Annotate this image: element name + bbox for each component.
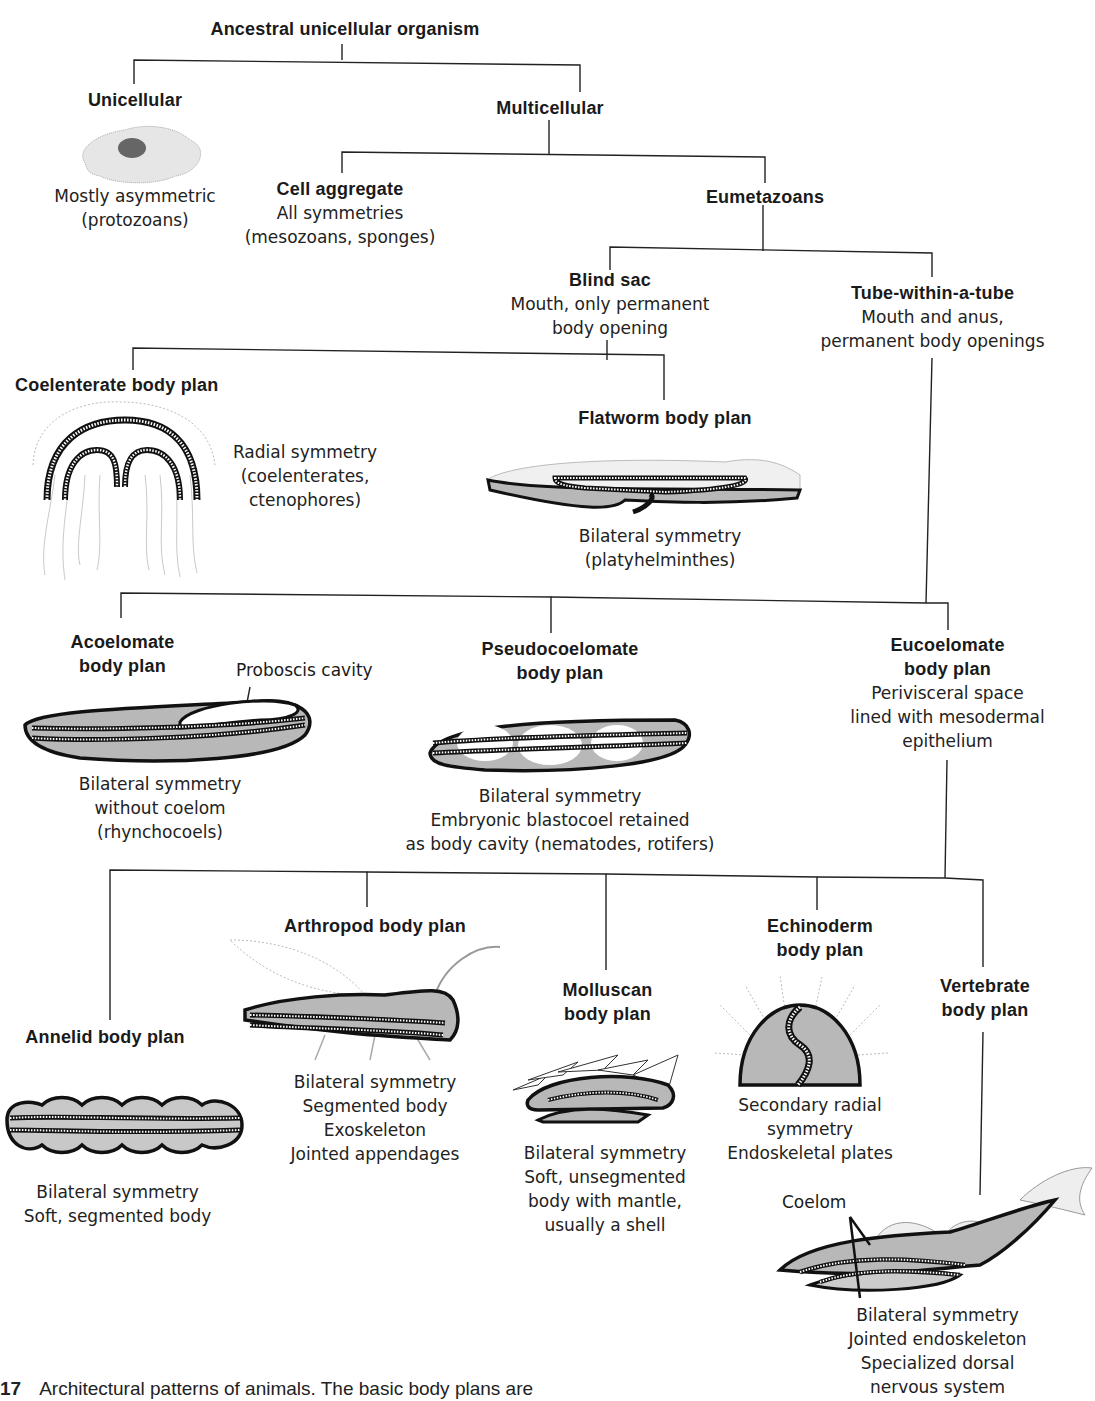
caption-text: Architectural patterns of animals. The b… <box>39 1378 533 1399</box>
figure-number: 17 <box>0 1378 21 1399</box>
node-blind-sac: Blind sac Mouth, only permanent body ope… <box>480 268 740 340</box>
node-molluscan-desc: Bilateral symmetry Soft, unsegmented bod… <box>505 1141 705 1237</box>
desc-line: Embryonic blastocoel retained <box>370 808 750 832</box>
node-pseudocoelomate-desc: Bilateral symmetry Embryonic blastocoel … <box>370 784 750 856</box>
node-pseudocoelomate: Pseudocoelomate body plan <box>455 637 665 685</box>
node-title: Ancestral unicellular organism <box>150 17 540 41</box>
node-title: Multicellular <box>450 96 650 120</box>
protozoan-illustration <box>75 118 210 188</box>
desc-line: Jointed endoskeleton <box>815 1327 1060 1351</box>
node-molluscan: Molluscan body plan <box>520 978 695 1026</box>
node-title: Pseudocoelomate <box>455 637 665 661</box>
node-multicellular: Multicellular <box>450 96 650 120</box>
node-ancestral-organism: Ancestral unicellular organism <box>150 17 540 41</box>
desc-line: without coelom <box>55 796 265 820</box>
desc-line: body with mantle, <box>505 1189 705 1213</box>
desc-line: Bilateral symmetry <box>505 1141 705 1165</box>
node-echinoderm-desc: Secondary radial symmetry Endoskeletal p… <box>705 1093 915 1165</box>
desc-line: permanent body openings <box>790 329 1075 353</box>
molluscan-illustration <box>508 1050 688 1130</box>
node-title: body plan <box>455 661 665 685</box>
figure-caption: 17Architectural patterns of animals. The… <box>0 1378 533 1400</box>
desc-line: ctenophores) <box>225 488 385 512</box>
node-coelenterate-desc: Radial symmetry (coelenterates, ctenopho… <box>225 440 385 512</box>
desc-line: Soft, segmented body <box>0 1204 235 1228</box>
desc-line: (platyhelminthes) <box>540 548 780 572</box>
desc-line: All symmetries <box>225 201 455 225</box>
node-title: Flatworm body plan <box>550 406 780 430</box>
desc-line: Bilateral symmetry <box>0 1180 235 1204</box>
node-flatworm-desc: Bilateral symmetry (platyhelminthes) <box>540 524 780 572</box>
node-acoelomate: Acoelomate body plan <box>40 630 205 678</box>
node-title: Vertebrate <box>905 974 1065 998</box>
vertebrate-illustration <box>770 1160 1095 1300</box>
desc-line: Perivisceral space <box>840 681 1055 705</box>
node-title: Coelenterate body plan <box>15 373 255 397</box>
annelid-illustration <box>2 1090 247 1170</box>
desc-line: symmetry <box>705 1117 915 1141</box>
node-title: Acoelomate <box>40 630 205 654</box>
desc-line: Mouth, only permanent <box>480 292 740 316</box>
desc-line: Soft, unsegmented <box>505 1165 705 1189</box>
desc-line: Exoskeleton <box>255 1118 495 1142</box>
node-title: Blind sac <box>480 268 740 292</box>
node-title: body plan <box>520 1002 695 1026</box>
node-vertebrate: Vertebrate body plan <box>905 974 1065 1022</box>
node-title: Annelid body plan <box>5 1025 205 1049</box>
node-title: body plan <box>40 654 205 678</box>
node-title: Eumetazoans <box>665 185 865 209</box>
desc-line: Bilateral symmetry <box>815 1303 1060 1327</box>
coelenterate-illustration <box>25 405 225 585</box>
desc-line: Radial symmetry <box>225 440 385 464</box>
node-annelid-desc: Bilateral symmetry Soft, segmented body <box>0 1180 235 1228</box>
desc-line: Bilateral symmetry <box>55 772 265 796</box>
node-cell-aggregate: Cell aggregate All symmetries (mesozoans… <box>225 177 455 249</box>
desc-line: lined with mesodermal <box>840 705 1055 729</box>
desc-line: Bilateral symmetry <box>540 524 780 548</box>
desc-line: body opening <box>480 316 740 340</box>
node-title: Eucoelomate <box>840 633 1055 657</box>
node-tube-within-a-tube: Tube-within-a-tube Mouth and anus, perma… <box>790 281 1075 353</box>
desc-line: nervous system <box>815 1375 1060 1399</box>
node-title: Tube-within-a-tube <box>790 281 1075 305</box>
node-title: body plan <box>840 657 1055 681</box>
node-flatworm: Flatworm body plan <box>550 406 780 430</box>
node-title: body plan <box>740 938 900 962</box>
node-acoelomate-desc: Bilateral symmetry without coelom (rhync… <box>55 772 265 844</box>
node-echinoderm: Echinoderm body plan <box>740 914 900 962</box>
proboscis-cavity-label: Proboscis cavity <box>236 660 373 680</box>
node-title: Molluscan <box>520 978 695 1002</box>
node-title: Echinoderm <box>740 914 900 938</box>
desc-line: Mouth and anus, <box>790 305 1075 329</box>
node-eumetazoans: Eumetazoans <box>665 185 865 209</box>
arthropod-illustration <box>225 935 510 1065</box>
desc-line: epithelium <box>840 729 1055 753</box>
node-eucoelomate: Eucoelomate body plan Perivisceral space… <box>840 633 1055 753</box>
node-vertebrate-desc: Bilateral symmetry Jointed endoskeleton … <box>815 1303 1060 1399</box>
desc-line: (rhynchocoels) <box>55 820 265 844</box>
echinoderm-illustration <box>710 975 890 1095</box>
desc-line: Jointed appendages <box>255 1142 495 1166</box>
node-annelid: Annelid body plan <box>5 1025 205 1049</box>
desc-line: Specialized dorsal <box>815 1351 1060 1375</box>
node-title: body plan <box>905 998 1065 1022</box>
desc-line: (coelenterates, <box>225 464 385 488</box>
desc-line: Segmented body <box>255 1094 495 1118</box>
node-unicellular: Unicellular <box>5 88 265 112</box>
desc-line: Bilateral symmetry <box>255 1070 495 1094</box>
node-coelenterate: Coelenterate body plan <box>15 373 255 397</box>
desc-line: (mesozoans, sponges) <box>225 225 455 249</box>
pseudocoelomate-illustration <box>425 715 695 775</box>
flatworm-illustration <box>485 450 805 530</box>
desc-line: Bilateral symmetry <box>370 784 750 808</box>
desc-line: usually a shell <box>505 1213 705 1237</box>
acoelomate-illustration <box>20 690 310 770</box>
node-title: Cell aggregate <box>225 177 455 201</box>
node-arthropod-desc: Bilateral symmetry Segmented body Exoske… <box>255 1070 495 1166</box>
desc-line: Secondary radial <box>705 1093 915 1117</box>
node-title: Unicellular <box>5 88 265 112</box>
desc-line: as body cavity (nematodes, rotifers) <box>370 832 750 856</box>
